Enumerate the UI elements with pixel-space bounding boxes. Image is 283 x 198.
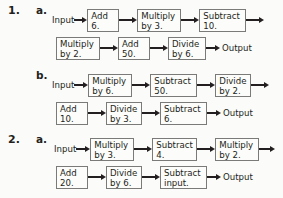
operation-line-1: Subtract: [164, 104, 204, 114]
operation-line-2: 4.: [156, 150, 194, 160]
problem-number: 2.: [8, 133, 20, 146]
operation-box: Add 50.: [118, 37, 150, 60]
operation-line-2: by 3.: [141, 21, 178, 31]
operation-line-1: Add: [60, 104, 85, 114]
operation-box: Divide by 6.: [106, 166, 142, 189]
arrow-icon: [206, 44, 220, 53]
operation-line-1: Subtract: [164, 168, 204, 178]
operation-box: Multiply by 3.: [137, 9, 181, 32]
arrow-icon: [207, 173, 221, 182]
operation-line-1: Divide: [219, 76, 248, 86]
operation-line-1: Multiply: [94, 140, 131, 150]
flow-row-bottom: Multiply by 2. Add 50. Divide by 6. Outp…: [56, 36, 252, 60]
operation-line-2: 10.: [203, 21, 243, 31]
part-letter: a.: [36, 133, 47, 145]
part-letter: b.: [36, 69, 48, 81]
operation-box: Divide by 6.: [168, 37, 206, 60]
arrow-icon: [132, 81, 150, 90]
operation-box: Divide by 3.: [106, 102, 142, 125]
arrow-icon: [74, 16, 87, 25]
operation-line-2: by 6.: [172, 49, 203, 59]
operation-box: Multiply by 3.: [90, 138, 134, 161]
operation-line-1: Divide: [172, 39, 203, 49]
flow-row-bottom: Add 10. Divide by 3. Subtract 6. Output: [56, 101, 253, 125]
arrow-icon: [197, 81, 215, 90]
flow-row-top: Input Multiply by 3. Subtract 4. Multipl…: [54, 137, 275, 161]
arrow-icon: [74, 81, 88, 90]
operation-box: Subtract 6.: [160, 102, 207, 125]
arrow-icon: [181, 16, 199, 25]
worksheet-page: 1. a. Input Add 6. Multiply by 3. Subt: [0, 0, 283, 198]
operation-line-2: 6.: [164, 114, 204, 124]
operation-line-1: Add: [91, 11, 116, 21]
operation-line-1: Add: [60, 168, 85, 178]
operation-line-2: input.: [164, 178, 204, 188]
flow-row-top: Input Multiply by 6. Subtract 50. Divide…: [52, 73, 269, 97]
operation-line-2: 50.: [154, 86, 194, 96]
arrow-icon: [207, 109, 221, 118]
flow-row-bottom: Add 20. Divide by 6. Subtract input. Out…: [56, 165, 253, 189]
operation-line-2: 10.: [60, 114, 85, 124]
arrow-icon: [197, 145, 215, 154]
operation-line-1: Multiply: [141, 11, 178, 21]
operation-line-1: Subtract: [154, 76, 194, 86]
operation-line-2: by 2.: [60, 49, 97, 59]
part-letter: a.: [36, 4, 47, 16]
problem-number: 1.: [8, 4, 20, 17]
arrow-icon: [259, 145, 275, 154]
arrow-icon: [142, 173, 160, 182]
operation-box: Multiply by 2.: [215, 138, 259, 161]
arrow-icon: [142, 109, 160, 118]
input-label: Input: [54, 145, 76, 154]
operation-box: Divide by 2.: [215, 74, 251, 97]
operation-box: Add 10.: [56, 102, 88, 125]
operation-box: Subtract 10.: [199, 9, 246, 32]
operation-box: Subtract 50.: [150, 74, 197, 97]
output-label: Output: [222, 44, 252, 53]
operation-line-1: Add: [122, 39, 147, 49]
input-label: Input: [52, 81, 74, 90]
operation-line-2: 6.: [91, 21, 116, 31]
operation-box: Add 6.: [87, 9, 119, 32]
operation-line-2: 50.: [122, 49, 147, 59]
operation-line-1: Multiply: [219, 140, 256, 150]
operation-box: Multiply by 6.: [88, 74, 132, 97]
operation-line-2: by 2.: [219, 86, 248, 96]
operation-box: Subtract input.: [160, 166, 207, 189]
arrow-icon-wrap: [246, 16, 264, 25]
operation-line-2: 20.: [60, 178, 85, 188]
arrow-icon: [88, 173, 106, 182]
operation-line-2: by 2.: [219, 150, 256, 160]
operation-line-2: by 3.: [110, 114, 139, 124]
operation-line-1: Subtract: [203, 11, 243, 21]
operation-line-1: Divide: [110, 104, 139, 114]
arrow-icon: [76, 145, 90, 154]
arrow-icon: [88, 109, 106, 118]
operation-box: Add 20.: [56, 166, 88, 189]
operation-line-1: Divide: [110, 168, 139, 178]
operation-line-2: by 3.: [94, 150, 131, 160]
output-label: Output: [223, 109, 253, 118]
arrow-icon: [134, 145, 152, 154]
operation-line-1: Multiply: [92, 76, 129, 86]
arrow-icon: [100, 44, 118, 53]
output-label: Output: [223, 173, 253, 182]
operation-box: Multiply by 2.: [56, 37, 100, 60]
input-label: Input: [52, 16, 74, 25]
flow-row-top: Input Add 6. Multiply by 3. Subtract 10.: [52, 8, 264, 32]
operation-line-1: Multiply: [60, 39, 97, 49]
arrow-icon: [119, 16, 137, 25]
operation-box: Subtract 4.: [152, 138, 197, 161]
operation-line-2: by 6.: [92, 86, 129, 96]
operation-line-1: Subtract: [156, 140, 194, 150]
arrow-icon: [150, 44, 168, 53]
operation-line-2: by 6.: [110, 178, 139, 188]
arrow-icon: [251, 81, 269, 90]
